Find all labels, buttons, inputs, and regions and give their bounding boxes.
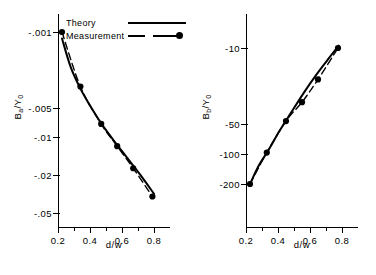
y-tick-label-b-1: -50 (225, 119, 240, 130)
plot-panel-a: Ba/Y0 -.001 -.005 -.01 -.02 -.05 0.2 (0, 0, 188, 275)
y-tick-label-a-2: -.01 (34, 132, 52, 143)
y-tick-label-a-0: -.001 (28, 27, 52, 38)
data-point-marker (264, 149, 270, 155)
legend-swatch-measurement (128, 30, 186, 41)
x-tick-label-a-0: 0.2 (51, 235, 65, 246)
series-line-theory (250, 46, 339, 184)
y-tick-label-a-3: -.02 (34, 170, 52, 181)
data-curves-a (58, 14, 170, 228)
data-point-marker (247, 181, 253, 187)
y-tick-label-a-1: -.005 (28, 103, 52, 114)
data-point-marker (77, 83, 83, 89)
x-axis-title-b: d/w (294, 239, 311, 250)
data-point-marker (114, 143, 120, 149)
plot-area-b: -10 -50 -100 -200 0.2 0.4 0.6 0.8 (246, 14, 358, 228)
data-point-marker (149, 193, 155, 199)
x-tick-label-a-1: 0.4 (83, 235, 97, 246)
x-tick-label-b-3: 0.8 (335, 235, 349, 246)
y-axis-title-b: Bb/Y0 (200, 94, 213, 119)
series-line-theory (62, 38, 154, 193)
y-axis-title-a: Ba/Y0 (12, 94, 25, 119)
legend-item-theory: Theory (66, 16, 186, 29)
data-point-marker (59, 29, 65, 35)
y-tick-label-b-3: -200 (219, 179, 240, 190)
data-point-marker (130, 165, 136, 171)
y-tick-label-b-2: -100 (219, 149, 240, 160)
x-tick-label-b-0: 0.2 (239, 235, 253, 246)
plot-area-a: -.001 -.005 -.01 -.02 -.05 0.2 0.4 0.6 0… (58, 14, 170, 228)
legend: Theory Measurement (66, 16, 186, 42)
data-point-marker (315, 76, 321, 82)
legend-item-measurement: Measurement (66, 29, 186, 42)
legend-label-theory: Theory (66, 18, 128, 28)
data-point-marker (335, 45, 341, 51)
y-tick-label-b-0: -10 (225, 43, 240, 54)
data-point-marker (299, 99, 305, 105)
data-point-marker (283, 118, 289, 124)
figure-root: Ba/Y0 -.001 -.005 -.01 -.02 -.05 0.2 (0, 0, 376, 275)
legend-label-measurement: Measurement (66, 31, 128, 41)
x-tick-label-a-3: 0.8 (147, 235, 161, 246)
data-point-marker (98, 121, 104, 127)
data-curves-b (246, 14, 358, 228)
legend-swatch-theory (128, 17, 186, 28)
x-axis-title-a: d/w (106, 239, 123, 250)
plot-panel-b: Bb/Y0 -10 -50 -100 -200 0.2 0.4 0.6 (188, 0, 376, 275)
y-tick-label-a-4: -.05 (34, 208, 52, 219)
x-tick-label-b-1: 0.4 (271, 235, 285, 246)
series-line-measurement (250, 48, 338, 184)
